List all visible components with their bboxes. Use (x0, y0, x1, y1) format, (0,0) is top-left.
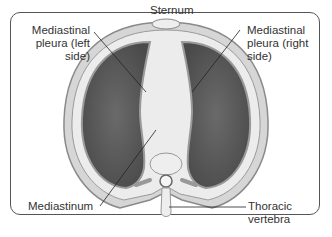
label-line: side) (18, 50, 90, 63)
label-thoracic-vertebra: Thoracic vertebra (248, 200, 292, 226)
sternum (152, 19, 180, 29)
label-mediastinal-pleura-right: Mediastinal pleura (right side) (247, 24, 325, 63)
spinal-canal (160, 175, 172, 187)
label-mediastinum: Mediastinum (28, 200, 93, 213)
label-line: side) (247, 50, 325, 63)
spinous-process (161, 188, 171, 217)
label-line: Thoracic (248, 200, 292, 213)
label-line: Mediastinal (247, 24, 325, 37)
label-mediastinal-pleura-left: Mediastinal pleura (left side) (18, 24, 90, 63)
vertebral-body (150, 153, 182, 175)
label-sternum: Sternum (150, 4, 193, 17)
label-line: pleura (left (18, 37, 90, 50)
label-line: pleura (right (247, 37, 325, 50)
label-line: Mediastinal (18, 24, 90, 37)
label-line: vertebra (248, 213, 292, 226)
